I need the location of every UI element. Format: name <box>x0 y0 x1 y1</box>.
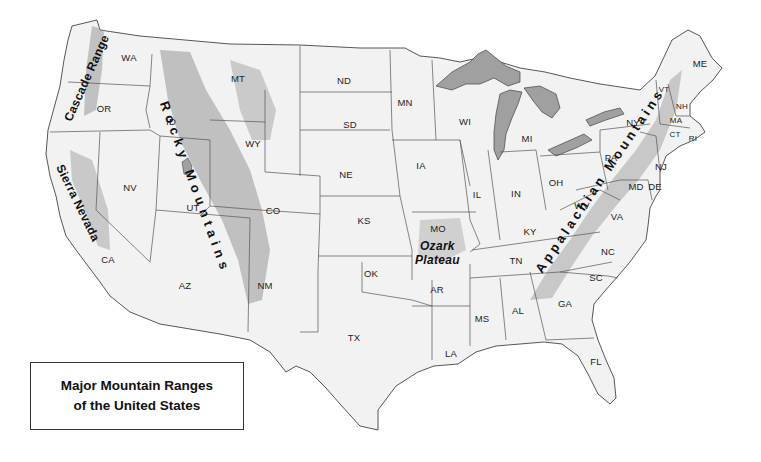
state-label-mi: MI <box>522 133 533 144</box>
state-label-la: LA <box>445 348 457 359</box>
state-label-ne: NE <box>339 169 353 180</box>
state-label-ms: MS <box>475 313 490 324</box>
state-label-de: DE <box>648 181 662 192</box>
state-label-ca: CA <box>101 254 115 265</box>
ozark-line1: Ozark <box>415 239 460 253</box>
state-label-ar: AR <box>430 284 444 295</box>
state-label-fl: FL <box>590 356 602 367</box>
state-label-mn: MN <box>397 97 412 108</box>
state-label-az: AZ <box>179 280 192 291</box>
state-label-oh: OH <box>549 177 564 188</box>
state-label-ks: KS <box>357 215 370 226</box>
state-label-sc: SC <box>589 272 603 283</box>
state-label-ri: RI <box>689 134 697 143</box>
state-label-wy: WY <box>245 138 261 149</box>
state-label-me: ME <box>693 58 708 69</box>
state-label-ok: OK <box>364 268 378 279</box>
state-label-ct: CT <box>669 130 680 139</box>
state-label-or: OR <box>97 103 112 114</box>
us-mountain-map: WAORCANVIDMTWYUTCOAZNMNDSDNEKSOKTXMNIAMO… <box>0 0 761 462</box>
state-label-ma: MA <box>670 116 682 125</box>
state-label-nh: NH <box>676 102 688 111</box>
state-label-il: IL <box>473 189 481 200</box>
state-label-nv: NV <box>123 182 137 193</box>
state-label-mt: MT <box>231 73 245 84</box>
state-label-tx: TX <box>348 332 361 343</box>
state-label-mo: MO <box>430 223 446 234</box>
state-label-sd: SD <box>343 119 357 130</box>
state-label-wa: WA <box>121 52 136 63</box>
map-title-line1: Major Mountain Ranges <box>61 376 213 396</box>
state-label-nd: ND <box>337 75 351 86</box>
state-label-in: IN <box>511 188 521 199</box>
state-label-ia: IA <box>416 160 425 171</box>
state-label-ky: KY <box>523 226 536 237</box>
state-label-al: AL <box>512 305 524 316</box>
state-label-nj: NJ <box>655 161 667 172</box>
state-label-ga: GA <box>558 298 572 309</box>
state-label-va: VA <box>611 211 623 222</box>
state-label-md: MD <box>628 181 643 192</box>
map-title-box: Major Mountain Ranges of the United Stat… <box>30 362 244 430</box>
state-label-co: CO <box>266 205 281 216</box>
map-title-line2: of the United States <box>74 396 201 416</box>
state-label-tn: TN <box>509 255 522 266</box>
ozark-plateau-label: Ozark Plateau <box>415 239 460 267</box>
ozark-line2: Plateau <box>415 253 460 267</box>
state-label-nm: NM <box>257 280 272 291</box>
state-label-wi: WI <box>459 116 471 127</box>
state-label-nc: NC <box>601 246 615 257</box>
